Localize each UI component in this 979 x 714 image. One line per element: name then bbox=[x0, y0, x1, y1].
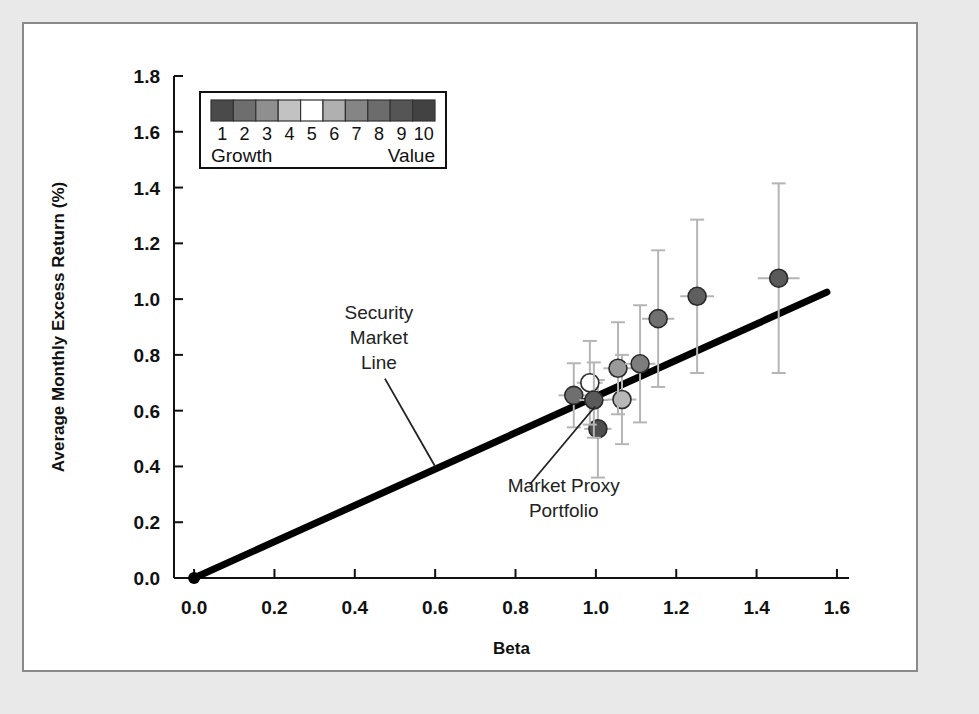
legend: 12345678910GrowthValue bbox=[200, 92, 446, 168]
legend-swatch-5[interactable] bbox=[301, 100, 323, 121]
x-tick-label: 1.4 bbox=[743, 597, 770, 618]
x-tick-label: 0.2 bbox=[261, 597, 287, 618]
x-tick-label: 1.0 bbox=[583, 597, 609, 618]
annotation-security-market-line-line: Security bbox=[345, 302, 414, 323]
legend-number-10: 10 bbox=[414, 124, 434, 144]
legend-high-label: Value bbox=[388, 145, 435, 166]
y-tick-label: 1.8 bbox=[134, 66, 160, 87]
legend-number-7: 7 bbox=[352, 124, 362, 144]
x-tick-label: 0.6 bbox=[422, 597, 448, 618]
x-tick-label: 0.4 bbox=[342, 597, 369, 618]
legend-swatch-4[interactable] bbox=[278, 100, 300, 121]
legend-number-2: 2 bbox=[240, 124, 250, 144]
legend-swatch-3[interactable] bbox=[256, 100, 278, 121]
legend-number-3: 3 bbox=[262, 124, 272, 144]
legend-swatch-6[interactable] bbox=[323, 100, 345, 121]
x-tick-label: 1.6 bbox=[824, 597, 850, 618]
decile-marker-4[interactable] bbox=[585, 391, 603, 409]
x-tick-label: 1.2 bbox=[663, 597, 689, 618]
legend-low-label: Growth bbox=[211, 145, 272, 166]
legend-number-5: 5 bbox=[307, 124, 317, 144]
legend-number-6: 6 bbox=[329, 124, 339, 144]
legend-number-9: 9 bbox=[396, 124, 406, 144]
chart-canvas: 0.00.20.40.60.81.01.21.41.60.00.20.40.60… bbox=[24, 24, 916, 670]
decile-marker-9[interactable] bbox=[688, 287, 706, 305]
legend-swatch-7[interactable] bbox=[345, 100, 367, 121]
decile-marker-5[interactable] bbox=[613, 391, 631, 409]
y-tick-label: 1.2 bbox=[134, 233, 160, 254]
security-market-line bbox=[194, 292, 827, 578]
legend-swatch-1[interactable] bbox=[211, 100, 233, 121]
legend-number-1: 1 bbox=[217, 124, 227, 144]
x-axis-title: Beta bbox=[493, 639, 530, 658]
y-tick-label: 0.6 bbox=[134, 401, 160, 422]
legend-number-4: 4 bbox=[284, 124, 294, 144]
decile-marker-2[interactable] bbox=[589, 420, 607, 438]
legend-swatch-2[interactable] bbox=[233, 100, 255, 121]
y-tick-label: 0.4 bbox=[134, 456, 161, 477]
decile-marker-3[interactable] bbox=[581, 374, 599, 392]
data-point bbox=[758, 183, 800, 373]
decile-marker-7[interactable] bbox=[631, 355, 649, 373]
legend-swatch-8[interactable] bbox=[368, 100, 390, 121]
y-tick-label: 0.2 bbox=[134, 512, 160, 533]
y-tick-label: 1.6 bbox=[134, 122, 160, 143]
origin-marker bbox=[188, 572, 200, 584]
legend-swatch-10[interactable] bbox=[413, 100, 435, 121]
decile-marker-8[interactable] bbox=[649, 310, 667, 328]
annotation-leader-security-market-line bbox=[385, 379, 435, 467]
y-tick-label: 0.0 bbox=[134, 568, 160, 589]
plot-area: 0.00.20.40.60.81.01.21.41.60.00.20.40.60… bbox=[49, 66, 850, 658]
data-point bbox=[680, 220, 714, 373]
y-axis-title: Average Monthly Excess Return (%) bbox=[49, 182, 68, 472]
y-tick-label: 1.4 bbox=[134, 178, 161, 199]
legend-swatch-9[interactable] bbox=[390, 100, 412, 121]
y-tick-label: 1.0 bbox=[134, 289, 160, 310]
annotation-security-market-line-line: Line bbox=[361, 352, 397, 373]
annotation-security-market-line-line: Market bbox=[350, 327, 409, 348]
decile-marker-6[interactable] bbox=[609, 359, 627, 377]
decile-marker-1[interactable] bbox=[565, 386, 583, 404]
y-tick-label: 0.8 bbox=[134, 345, 160, 366]
annotation-market-proxy-portfolio-line: Market Proxy bbox=[508, 475, 620, 496]
x-tick-label: 0.0 bbox=[181, 597, 207, 618]
decile-marker-10[interactable] bbox=[770, 269, 788, 287]
x-tick-label: 0.8 bbox=[502, 597, 528, 618]
annotation-market-proxy-portfolio-line: Portfolio bbox=[529, 500, 599, 521]
legend-number-8: 8 bbox=[374, 124, 384, 144]
figure-panel: 0.00.20.40.60.81.01.21.41.60.00.20.40.60… bbox=[22, 22, 918, 672]
